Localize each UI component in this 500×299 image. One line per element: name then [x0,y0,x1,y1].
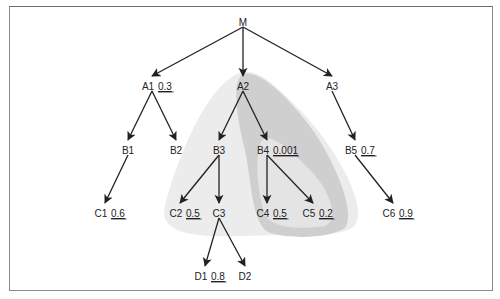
node-value: 0.001 [273,145,298,156]
node-label: A2 [237,81,250,92]
edge-A3-B5 [332,91,355,140]
edge-B1-C1 [105,155,128,203]
node-value: 0.8 [211,271,225,282]
node-value: 0.7 [361,145,375,156]
node-label: B4 [257,145,270,156]
node-B1: B1 [122,145,135,156]
node-D2: D2 [239,271,252,282]
node-label: C6 [383,208,396,219]
node-A2: A2 [237,81,250,92]
node-M: M [239,17,247,28]
node-label: C2 [170,208,183,219]
node-B5: B50.7 [345,145,377,156]
node-label: B3 [213,145,226,156]
node-label: C3 [213,208,226,219]
node-A3: A3 [326,81,339,92]
node-value: 0.2 [319,208,333,219]
edge-A1-B2 [152,91,176,140]
node-value: 0.3 [158,81,172,92]
edge-A1-B1 [128,91,152,140]
node-label: D1 [195,271,208,282]
node-B2: B2 [170,145,183,156]
node-D1: D10.8 [195,271,227,282]
node-C4: C40.5 [257,208,289,219]
edge-M-A1 [152,27,243,76]
node-B4: B40.001 [257,145,299,156]
node-label: A1 [142,81,155,92]
node-C5: C50.2 [303,208,335,219]
node-A1: A10.3 [142,81,174,92]
node-C2: C20.5 [170,208,202,219]
node-label: A3 [326,81,339,92]
node-value: 0.5 [273,208,287,219]
node-label: C1 [95,208,108,219]
node-value: 0.9 [399,208,413,219]
edge-B5-C6 [355,155,393,203]
node-label: B5 [345,145,358,156]
node-label: B1 [122,145,135,156]
node-label: M [239,17,247,28]
node-label: D2 [239,271,252,282]
node-C1: C10.6 [95,208,127,219]
tree-diagram: MA10.3A2A3B1B2B3B40.001B50.7C10.6C20.5C3… [0,0,500,299]
node-label: C5 [303,208,316,219]
node-C3: C3 [213,208,226,219]
node-value: 0.5 [186,208,200,219]
node-label: C4 [257,208,270,219]
node-B3: B3 [213,145,226,156]
edge-M-A3 [243,27,332,76]
node-value: 0.6 [111,208,125,219]
node-C6: C60.9 [383,208,415,219]
node-label: B2 [170,145,183,156]
